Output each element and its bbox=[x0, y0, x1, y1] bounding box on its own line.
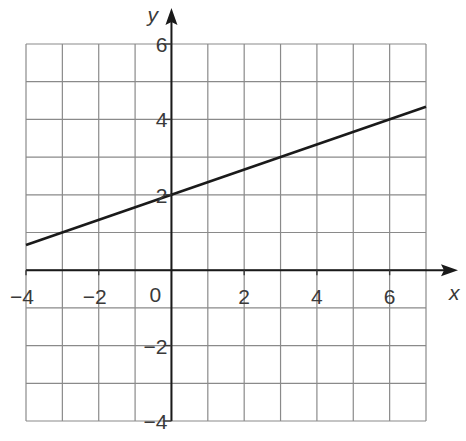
x-tick-label: 4 bbox=[311, 285, 323, 308]
series-layer bbox=[26, 107, 426, 245]
y-tick-label: 4 bbox=[156, 108, 168, 131]
x-tick-label: 6 bbox=[384, 285, 396, 308]
y-axis-label: y bbox=[145, 3, 159, 26]
axes bbox=[26, 8, 458, 421]
data-line-series bbox=[26, 107, 426, 245]
y-tick-label: −2 bbox=[144, 335, 168, 358]
origin-label: 0 bbox=[150, 283, 162, 306]
y-tick-label: 6 bbox=[156, 33, 168, 56]
x-tick-label: 2 bbox=[238, 285, 250, 308]
grid bbox=[26, 44, 426, 421]
x-tick-label: −4 bbox=[10, 285, 34, 308]
x-tick-label: −2 bbox=[83, 285, 107, 308]
y-tick-label: 2 bbox=[156, 184, 168, 207]
coordinate-plane: −4−2246642−2−4 x y 0 bbox=[0, 0, 466, 441]
y-tick-label: −4 bbox=[144, 410, 168, 433]
x-axis-label: x bbox=[448, 281, 461, 304]
